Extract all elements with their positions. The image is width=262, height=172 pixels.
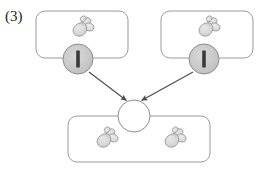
- boxes-layer: [36, 11, 253, 162]
- allele-bar-left: [76, 51, 80, 68]
- offspring-node-circle: [118, 100, 150, 132]
- arrow-left-to-center: [89, 72, 127, 101]
- figure-canvas: [0, 0, 262, 172]
- shaded-node-right[interactable]: [189, 44, 219, 74]
- shaded-node-left[interactable]: [63, 44, 93, 74]
- arrow-right-to-center: [142, 72, 194, 101]
- offspring-node[interactable]: [118, 100, 150, 132]
- arrows-layer: [89, 72, 193, 101]
- allele-bar-right: [202, 51, 206, 68]
